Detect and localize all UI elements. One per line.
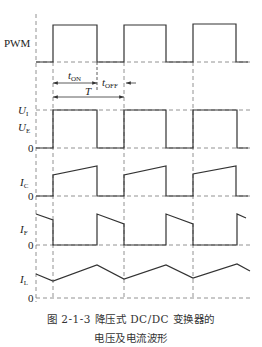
label-t-off: tOFF [102, 76, 118, 90]
label-ic: IC [19, 176, 29, 190]
zero-label-ic: 0 [28, 190, 34, 202]
label-if: IF [19, 223, 28, 237]
il-waveform [36, 264, 250, 281]
label-ue: UE [18, 121, 30, 135]
waveform-diagram: PWM UI UE 0 IC 0 IF 0 IL 0 tON tOFF T [0, 0, 262, 347]
ic-waveform [36, 166, 248, 196]
label-il: IL [19, 273, 28, 287]
figure-caption-line1: 图 2-1-3 降压式 DC/DC 变换器的 [0, 311, 262, 326]
ue-waveform [36, 110, 248, 148]
time-axis-guides [36, 14, 193, 302]
label-ui: UI [18, 104, 29, 118]
pwm-waveform [36, 24, 248, 62]
label-period: T [85, 85, 92, 97]
label-pwm: PWM [4, 37, 31, 49]
figure-caption-line2: 电压及电流波形 [0, 330, 262, 345]
signal-labels: PWM UI UE 0 IC 0 IF 0 IL 0 tON tOFF T [4, 37, 118, 304]
zero-label-il: 0 [28, 292, 34, 304]
zero-label-if: 0 [28, 239, 34, 251]
timing-annotations [53, 62, 136, 97]
label-t-on: tON [68, 69, 81, 83]
zero-label-ue: 0 [28, 142, 34, 154]
if-waveform [36, 214, 246, 245]
